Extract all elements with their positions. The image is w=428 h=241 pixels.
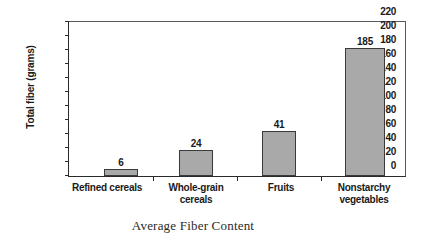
- bar-refined-cereals: 6: [104, 169, 138, 176]
- y-tick-mark: [65, 175, 69, 176]
- x-category-label-nonstarchy-vegetables: Nonstarchy vegetables: [318, 182, 410, 206]
- y-tick-label: 220: [380, 6, 396, 17]
- y-tick-label: 200: [380, 20, 396, 31]
- x-category-label-whole-grain-cereals: Whole-grain cereals: [151, 182, 241, 206]
- y-tick-label: 60: [385, 118, 396, 129]
- y-axis-title: Total fiber (grams): [24, 0, 38, 176]
- plot-area: 0 20 40 60 80 100 120 140 160 180 200 22…: [68, 21, 406, 177]
- y-tick-label: 40: [385, 132, 396, 143]
- y-tick-mark: [65, 63, 69, 64]
- bar-nonstarchy-vegetables: 185: [345, 48, 385, 176]
- bar-value-label: 6: [118, 157, 123, 168]
- y-tick-mark: [65, 105, 69, 106]
- x-category-label-line: Fruits: [236, 182, 326, 194]
- y-tick-mark: [65, 119, 69, 120]
- y-tick-mark: [65, 133, 69, 134]
- x-tick-mark: [321, 176, 322, 181]
- x-category-label-line: Whole-grain: [151, 182, 241, 194]
- y-tick-label: 0: [391, 160, 396, 171]
- y-tick-mark: [65, 161, 69, 162]
- y-tick-mark: [65, 77, 69, 78]
- y-tick-mark: [65, 21, 69, 22]
- x-category-label-line: cereals: [151, 194, 241, 206]
- x-category-label-line: Nonstarchy: [318, 182, 410, 194]
- y-tick-mark: [65, 35, 69, 36]
- bar-value-label: 41: [274, 119, 285, 130]
- bar-value-label: 24: [191, 138, 202, 149]
- bar-chart-figure: Total fiber (grams) 0 20 40 60 80 100 12…: [0, 0, 428, 241]
- bar-fruits: 41: [262, 131, 296, 176]
- x-category-label-line: vegetables: [318, 194, 410, 206]
- x-axis-title: Average Fiber Content: [68, 218, 318, 234]
- x-category-label-line: Refined cereals: [62, 182, 152, 194]
- x-category-label-refined-cereals: Refined cereals: [62, 182, 152, 194]
- x-tick-mark: [153, 176, 154, 181]
- y-tick-label: 80: [385, 104, 396, 115]
- y-tick-mark: [65, 49, 69, 50]
- bar-whole-grain-cereals: 24: [179, 150, 213, 176]
- bar-value-label: 185: [357, 36, 373, 47]
- y-tick-mark: [65, 147, 69, 148]
- y-tick-mark: [65, 91, 69, 92]
- x-category-label-fruits: Fruits: [236, 182, 326, 194]
- y-tick-label: 20: [385, 146, 396, 157]
- x-tick-mark: [237, 176, 238, 181]
- y-tick-label: 180: [380, 34, 396, 45]
